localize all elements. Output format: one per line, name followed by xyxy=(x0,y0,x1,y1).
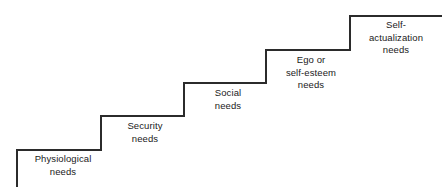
step-label-ego-self-esteem-needs: Ego or self-esteem needs xyxy=(269,54,353,92)
step-label-physiological-needs: Physiological needs xyxy=(21,153,105,178)
step-label-self-actualization-needs: Self- actualization needs xyxy=(353,19,439,57)
step-label-social-needs: Social needs xyxy=(187,87,269,112)
step-label-security-needs: Security needs xyxy=(104,120,186,145)
maslow-staircase-diagram: Physiological needs Security needs Socia… xyxy=(0,0,444,193)
